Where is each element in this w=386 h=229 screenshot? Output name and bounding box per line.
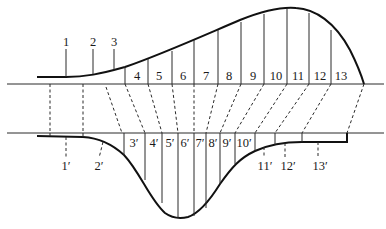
svg-text:10′: 10′ — [236, 136, 252, 150]
svg-text:2: 2 — [90, 35, 96, 49]
svg-text:8: 8 — [226, 69, 232, 83]
profile-diagram: 1 2 3 4 5 6 7 8 9 10 11 12 13 — [0, 0, 386, 229]
svg-text:4′: 4′ — [150, 136, 159, 150]
svg-text:10: 10 — [270, 69, 283, 83]
svg-text:5: 5 — [156, 69, 162, 83]
lower-ordinates — [50, 133, 302, 218]
svg-text:11′: 11′ — [258, 159, 273, 173]
svg-text:1′: 1′ — [62, 159, 71, 173]
svg-text:6: 6 — [180, 69, 186, 83]
lower-drop-ticks — [66, 137, 318, 158]
svg-text:11: 11 — [292, 69, 304, 83]
lower-curve — [37, 133, 347, 218]
svg-text:7′: 7′ — [196, 136, 205, 150]
svg-text:8′: 8′ — [209, 136, 218, 150]
diagram: 1 2 3 4 5 6 7 8 9 10 11 12 13 — [0, 0, 386, 229]
svg-text:2′: 2′ — [95, 159, 104, 173]
upper-labels: 1 2 3 4 5 6 7 8 9 10 11 12 13 — [63, 35, 347, 83]
svg-text:9: 9 — [250, 69, 256, 83]
svg-text:12′: 12′ — [280, 159, 296, 173]
svg-text:7: 7 — [203, 69, 209, 83]
svg-text:5′: 5′ — [166, 136, 175, 150]
svg-text:13′: 13′ — [312, 159, 328, 173]
svg-text:9′: 9′ — [223, 136, 232, 150]
svg-text:13: 13 — [335, 69, 348, 83]
svg-text:6′: 6′ — [181, 136, 190, 150]
svg-text:12: 12 — [314, 69, 327, 83]
svg-text:4: 4 — [134, 69, 141, 83]
correspondence-lines — [50, 84, 364, 133]
svg-text:1: 1 — [63, 35, 69, 49]
svg-text:3′: 3′ — [130, 136, 139, 150]
svg-text:3: 3 — [111, 35, 117, 49]
